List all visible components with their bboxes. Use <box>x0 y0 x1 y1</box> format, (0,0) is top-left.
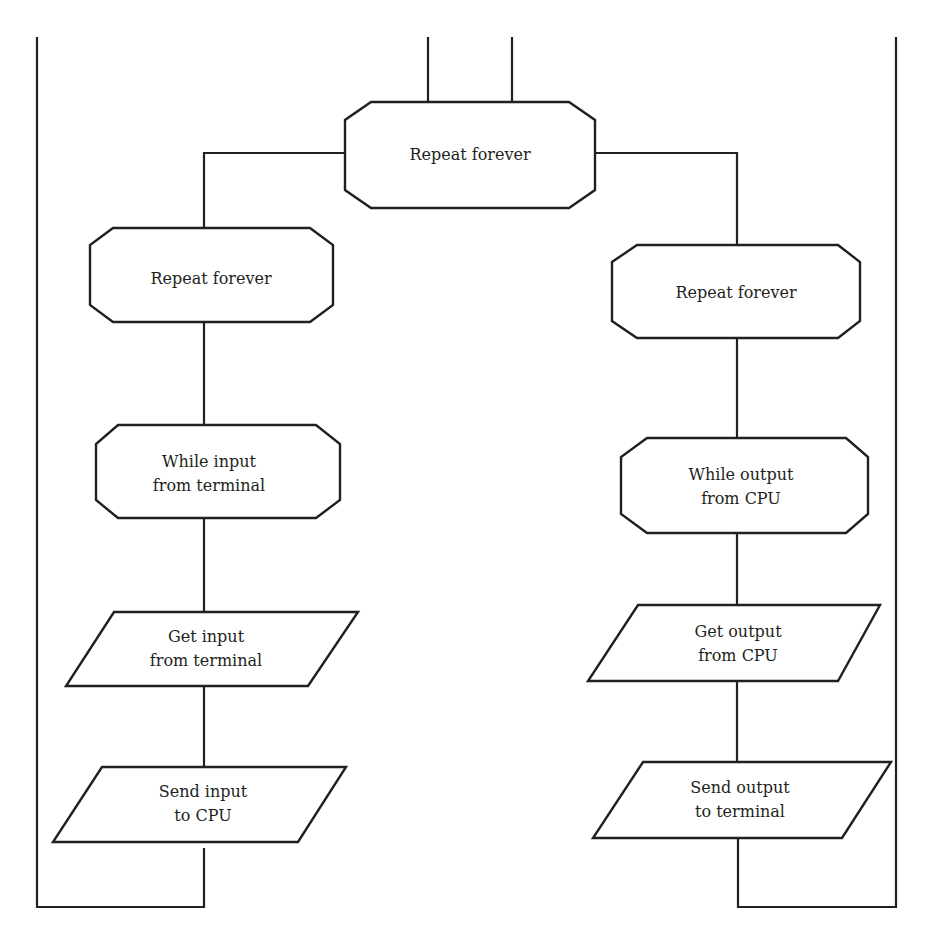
label-line: from CPU <box>694 644 781 668</box>
label-line: Get output <box>694 620 781 644</box>
label-line: Get input <box>150 625 262 649</box>
label-line: to terminal <box>690 800 789 824</box>
right-send-node-label: Send output to terminal <box>690 776 789 824</box>
label-line: Repeat forever <box>150 267 271 291</box>
flowchart-canvas: Repeat forever Repeat forever Repeat for… <box>0 0 932 949</box>
left-get-node-label: Get input from terminal <box>150 625 262 673</box>
label-line: While output <box>689 463 794 487</box>
right-while-node-label: While output from CPU <box>689 463 794 511</box>
label-line: Repeat forever <box>675 281 796 305</box>
right-get-node-label: Get output from CPU <box>694 620 781 668</box>
left-loop-node-label: Repeat forever <box>150 267 271 291</box>
label-line: Repeat forever <box>409 143 530 167</box>
label-line: from terminal <box>153 474 265 498</box>
connector-root-to-left <box>204 153 345 228</box>
label-line: from terminal <box>150 649 262 673</box>
label-line: While input <box>153 450 265 474</box>
root-node-label: Repeat forever <box>409 143 530 167</box>
label-line: Send input <box>159 780 247 804</box>
connector-root-to-right <box>595 153 737 245</box>
right-loop-node-label: Repeat forever <box>675 281 796 305</box>
label-line: to CPU <box>159 804 247 828</box>
label-line: Send output <box>690 776 789 800</box>
label-line: from CPU <box>689 487 794 511</box>
left-send-node-label: Send input to CPU <box>159 780 247 828</box>
left-while-node-label: While input from terminal <box>153 450 265 498</box>
